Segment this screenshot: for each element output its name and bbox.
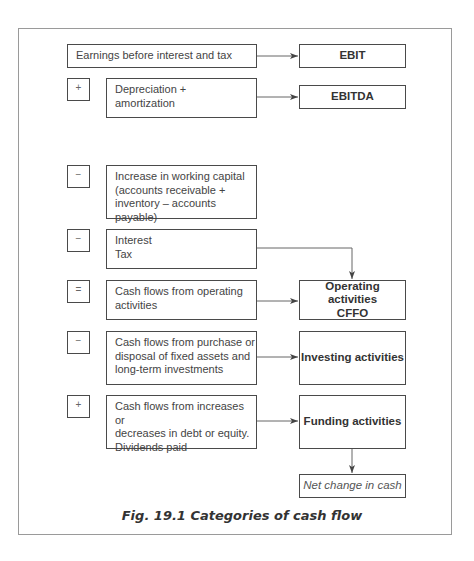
figure-caption: Fig. 19.1 Categories of cash flow: [0, 508, 474, 523]
arrow-interest-tax-to-operating: [257, 248, 352, 279]
connector-arrows: [0, 0, 474, 561]
